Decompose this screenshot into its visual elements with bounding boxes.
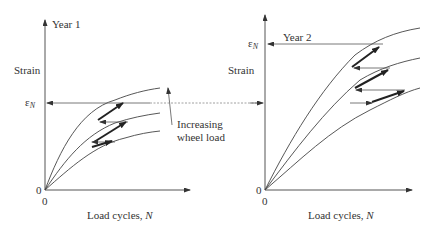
right-thick-arrow-1 [352,47,379,67]
annotation-line2: wheel load [177,131,225,143]
right-origin-x-label: 0 [262,195,268,207]
left-eps-n-label: εN [25,96,36,110]
left-panel-title: Year 1 [52,18,81,30]
right-panel-title: Year 2 [283,31,312,43]
right-thick-arrow-2 [355,70,388,88]
right-curve-high-load [265,28,420,190]
left-origin-x-label: 0 [42,195,48,207]
right-curve-low-load [265,88,420,190]
right-thick-arrow-3 [372,91,404,102]
increasing-load-arrow-icon [168,88,172,125]
right-x-axis-label: Load cycles, N [308,209,374,221]
left-x-axis-label: Load cycles, N [87,209,153,221]
strain-accumulation-diagram: Year 1 Strain εN 0 0 Load cycles, N Incr… [0,0,435,235]
right-panel: Year 2 Strain εN 0 0 Load cycles, N [228,15,420,221]
right-eps-n-label: εN [248,37,259,51]
right-y-axis-label: Strain [228,64,255,76]
left-y-axis-label: Strain [14,64,41,76]
left-panel: Year 1 Strain εN 0 0 Load cycles, N Incr… [14,18,225,221]
annotation-line1: Increasing [177,118,223,130]
left-curve-low-load [45,131,160,190]
